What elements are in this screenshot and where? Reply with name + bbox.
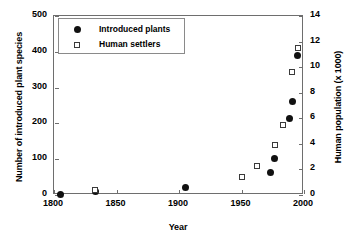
x-tick-mark	[179, 190, 180, 194]
y-right-tick-label: 2	[310, 162, 344, 172]
data-point-introduced-plants	[271, 155, 278, 162]
y-left-tick-label: 500	[13, 9, 47, 19]
filled-circle-icon	[74, 26, 81, 33]
y-right-tick-mark	[299, 42, 303, 43]
legend-label: Human settlers	[99, 37, 160, 52]
legend-entry: Introduced plants	[59, 22, 186, 37]
chart-figure: Number of introduced plant species Human…	[0, 0, 353, 244]
y-right-tick-mark	[299, 169, 303, 170]
x-axis-title: Year	[53, 222, 303, 232]
y-left-tick-label: 300	[13, 81, 47, 91]
y-right-tick-label: 4	[310, 137, 344, 147]
open-square-icon	[74, 42, 80, 48]
y-right-tick-label: 10	[310, 60, 344, 70]
y-right-tick-mark	[299, 67, 303, 68]
data-point-human-settlers	[239, 174, 245, 180]
data-point-human-settlers	[254, 163, 260, 169]
x-tick-mark	[304, 190, 305, 194]
y-right-tick-mark	[299, 16, 303, 17]
x-tick-label: 1850	[96, 198, 136, 208]
y-right-tick-mark	[299, 93, 303, 94]
data-point-introduced-plants	[286, 115, 293, 122]
x-tick-mark	[117, 190, 118, 194]
y-right-tick-label: 14	[310, 9, 344, 19]
data-point-introduced-plants	[182, 184, 189, 191]
x-tick-label: 1800	[33, 198, 73, 208]
data-point-human-settlers	[289, 69, 295, 75]
x-tick-mark	[54, 190, 55, 194]
x-tick-label: 2000	[283, 198, 323, 208]
data-point-human-settlers	[272, 142, 278, 148]
y-left-tick-label: 400	[13, 45, 47, 55]
y-right-tick-label: 0	[310, 188, 344, 198]
y-right-tick-mark	[299, 195, 303, 196]
x-tick-label: 1950	[221, 198, 261, 208]
y-left-tick-label: 100	[13, 152, 47, 162]
chart-legend: Introduced plantsHuman settlers	[58, 18, 185, 54]
data-point-human-settlers	[92, 187, 98, 193]
data-point-introduced-plants	[294, 52, 301, 59]
data-point-introduced-plants	[289, 98, 296, 105]
y-right-tick-label: 6	[310, 111, 344, 121]
y-right-tick-mark	[299, 144, 303, 145]
y-right-tick-label: 12	[310, 35, 344, 45]
data-point-human-settlers	[280, 122, 286, 128]
y-left-tick-mark	[55, 159, 59, 160]
x-tick-label: 1900	[158, 198, 198, 208]
y-left-tick-mark	[55, 123, 59, 124]
data-point-introduced-plants	[267, 169, 274, 176]
y-right-tick-mark	[299, 118, 303, 119]
y-left-tick-mark	[55, 88, 59, 89]
y-left-tick-label: 0	[13, 188, 47, 198]
data-point-introduced-plants	[57, 191, 64, 198]
x-tick-mark	[242, 190, 243, 194]
legend-entry: Human settlers	[59, 37, 186, 52]
y-left-tick-label: 200	[13, 116, 47, 126]
data-point-human-settlers	[295, 45, 301, 51]
y-right-tick-label: 8	[310, 86, 344, 96]
y-left-tick-mark	[55, 16, 59, 17]
legend-label: Introduced plants	[99, 22, 170, 37]
